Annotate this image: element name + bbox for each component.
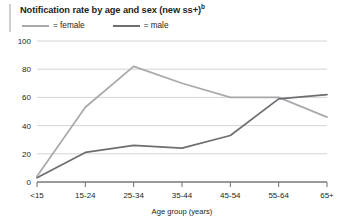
legend-line-male-icon xyxy=(113,25,140,27)
y-axis-labels-group: 020406080100 xyxy=(18,38,32,187)
y-axis-tick-label: 20 xyxy=(22,150,31,159)
y-axis-tick-label: 60 xyxy=(22,93,31,102)
gridlines-group xyxy=(37,41,327,182)
legend-item-male: = male xyxy=(113,21,169,30)
series-line-male xyxy=(37,95,327,178)
x-axis-tick-label: 45-54 xyxy=(220,191,241,200)
plot-area-wrapper: 020406080100 <1515-2425-3435-4445-5455-6… xyxy=(0,38,346,221)
x-axis-tick-label: 55-64 xyxy=(268,191,289,200)
x-axis-tick-label: 65+ xyxy=(320,191,334,200)
x-axis-ticks-group xyxy=(37,182,327,187)
y-axis-tick-label: 0 xyxy=(27,178,32,187)
x-axis-tick-label: <15 xyxy=(30,191,44,200)
line-chart-svg: 020406080100 <1515-2425-3435-4445-5455-6… xyxy=(0,38,346,221)
x-axis-title: Age group (years) xyxy=(152,207,213,216)
legend-label-male: = male xyxy=(144,21,169,30)
x-axis-labels-group: <1515-2425-3435-4445-5455-6465+ xyxy=(30,191,334,200)
legend-label-female: = female xyxy=(53,21,85,30)
chart-title: Notification rate by age and sex (new ss… xyxy=(20,5,205,15)
x-axis-tick-label: 25-34 xyxy=(123,191,144,200)
chart-title-text: Notification rate by age and sex (new ss… xyxy=(20,5,201,15)
left-vertical-rule xyxy=(9,4,11,32)
y-axis-tick-label: 80 xyxy=(22,65,31,74)
chart-title-superscript: b xyxy=(201,3,205,10)
legend-line-female-icon xyxy=(22,25,49,27)
chart-legend: = female = male xyxy=(22,21,168,30)
chart-figure: Notification rate by age and sex (new ss… xyxy=(0,0,346,221)
data-series-group xyxy=(37,66,327,177)
y-axis-tick-label: 40 xyxy=(22,122,31,131)
x-axis-tick-label: 35-44 xyxy=(172,191,193,200)
legend-item-female: = female xyxy=(22,21,85,30)
series-line-female xyxy=(37,66,327,176)
x-axis-tick-label: 15-24 xyxy=(75,191,96,200)
x-axis-title-group: Age group (years) xyxy=(152,207,213,216)
y-axis-tick-label: 100 xyxy=(18,38,32,46)
